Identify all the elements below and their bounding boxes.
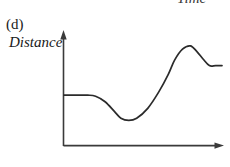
figure-panel: Time (d) Distance: [0, 0, 230, 167]
distance-curve: [64, 46, 222, 121]
x-axis-arrowhead: [215, 142, 225, 148]
y-axis-arrowhead: [60, 30, 66, 40]
distance-time-plot: [0, 0, 230, 167]
